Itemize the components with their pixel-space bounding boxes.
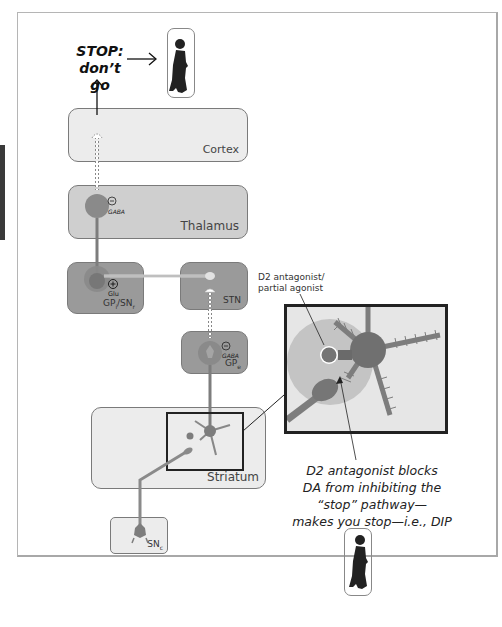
thalamocortical-projection (92, 134, 102, 190)
arrow-right-icon (127, 53, 156, 65)
stop-line-1: STOP: (70, 43, 130, 60)
person-frame-top (167, 28, 195, 98)
d2-antagonist-dot (187, 433, 194, 440)
person-frame-bottom (344, 528, 372, 596)
d2-receptor (338, 350, 352, 360)
annotation-line-1: D2 antagonist/ (258, 272, 324, 283)
d2-antagonist-annotation: D2 antagonist/ partial agonist (258, 272, 324, 294)
diagram-graphics: GABA Glu GABA (0, 0, 502, 627)
gpi-neuron (84, 266, 208, 292)
inset-neuron-detail (287, 294, 440, 460)
zoom-connector-line (243, 395, 284, 431)
striatal-neuron-soma (350, 332, 386, 368)
thalamus-gaba-label: GABA (108, 208, 125, 215)
caption-line-3: “stop” pathway— (277, 496, 467, 513)
stop-line-2: don’t go (70, 60, 130, 94)
stn-neuron (205, 272, 215, 338)
gpi-glu-label: Glu (108, 290, 119, 298)
annotation-line-2: partial agonist (258, 283, 324, 294)
snc-dopamine-neuron (132, 446, 194, 543)
caption-line-2: DA from inhibiting the (277, 479, 467, 496)
d2-antagonist-molecule (322, 348, 337, 363)
striatum-focus-box (167, 413, 243, 470)
gpe-gaba-label: GABA (222, 352, 239, 359)
caption: D2 antagonist blocks DA from inhibiting … (277, 462, 467, 530)
stop-label: STOP: don’t go (70, 43, 130, 94)
caption-line-4: makes you stop—i.e., DIP (277, 513, 467, 530)
caption-line-1: D2 antagonist blocks (277, 462, 467, 479)
